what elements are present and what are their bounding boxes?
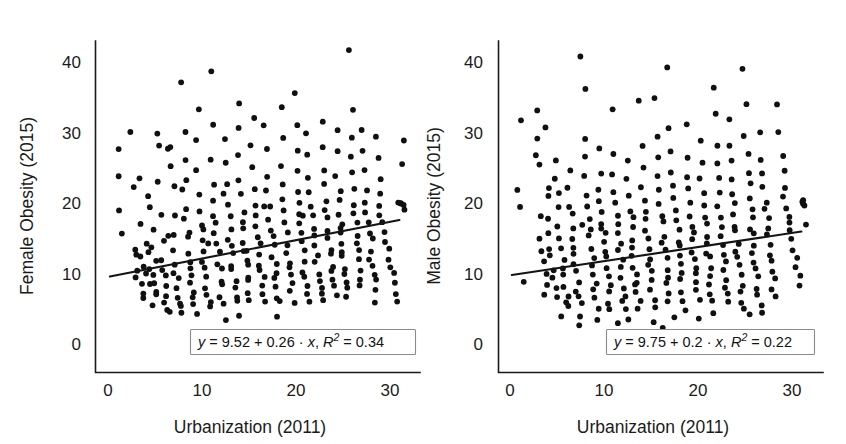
scatter-point	[225, 202, 231, 208]
scatter-point	[757, 129, 763, 135]
scatter-point	[582, 136, 588, 142]
scatter-point	[265, 217, 271, 223]
scatter-point	[727, 143, 733, 149]
scatter-point	[138, 221, 144, 227]
scatter-point	[242, 210, 248, 216]
scatter-point	[140, 295, 146, 301]
scatter-point	[698, 138, 704, 144]
scatter-point	[351, 186, 357, 192]
scatter-point	[594, 281, 600, 287]
scatter-point	[153, 291, 159, 297]
scatter-point	[788, 236, 794, 242]
scatter-point	[537, 162, 543, 168]
scatter-point	[190, 294, 196, 300]
scatter-point	[328, 268, 334, 274]
scatter-point	[545, 216, 551, 222]
scatter-point	[606, 273, 612, 279]
scatter-point	[762, 206, 768, 212]
scatter-point	[274, 261, 280, 267]
scatter-point	[304, 152, 310, 158]
scatter-point	[364, 187, 370, 193]
scatter-point	[296, 220, 302, 226]
scatter-point	[331, 283, 337, 289]
scatter-point	[196, 106, 202, 112]
scatter-point	[321, 167, 327, 173]
scatter-point	[704, 234, 710, 240]
scatter-point	[261, 204, 267, 210]
scatter-point	[153, 258, 159, 264]
scatter-point	[794, 255, 800, 261]
scatter-point	[248, 142, 254, 148]
figure-background	[0, 0, 846, 444]
obesity-urbanization-figure: 010203040 0102030 Female Obesity (2015) …	[0, 0, 846, 444]
scatter-point	[245, 262, 251, 268]
scatter-point	[541, 292, 547, 298]
scatter-point	[606, 306, 612, 312]
scatter-point	[401, 138, 407, 144]
scatter-point	[598, 226, 604, 232]
scatter-point	[179, 187, 185, 193]
scatter-point	[693, 279, 699, 285]
scatter-point	[221, 301, 227, 307]
scatter-point	[191, 290, 197, 296]
scatter-point	[304, 291, 310, 297]
scatter-point	[267, 204, 273, 210]
scatter-point	[225, 237, 231, 243]
scatter-point	[786, 214, 792, 220]
scatter-point	[170, 247, 176, 253]
scatter-point	[651, 319, 657, 325]
scatter-point	[348, 154, 354, 160]
eq-comma-male: ,	[723, 334, 731, 350]
scatter-point	[541, 258, 547, 264]
scatter-point	[656, 187, 662, 193]
scatter-point	[373, 287, 379, 293]
scatter-point	[354, 240, 360, 246]
scatter-point	[734, 254, 740, 260]
scatter-point	[210, 213, 216, 219]
scatter-point	[570, 211, 576, 217]
scatter-point	[283, 250, 289, 256]
scatter-point	[330, 277, 336, 283]
scatter-point	[240, 219, 246, 225]
scatter-point	[295, 168, 301, 174]
scatter-point	[683, 307, 689, 313]
scatter-point	[719, 224, 725, 230]
scatter-point	[185, 251, 191, 257]
scatter-point	[292, 90, 298, 96]
scatter-point	[747, 311, 753, 317]
scatter-point	[273, 284, 279, 290]
scatter-point	[249, 164, 255, 170]
scatter-point	[213, 241, 219, 247]
scatter-point	[320, 119, 326, 125]
scatter-point	[758, 157, 764, 163]
scatter-point	[573, 268, 579, 274]
scatter-point	[336, 212, 342, 218]
scatter-point	[321, 181, 327, 187]
scatter-point	[604, 265, 610, 271]
scatter-point	[567, 168, 573, 174]
y-tick-label: 30	[464, 124, 483, 143]
scatter-point	[236, 313, 242, 319]
scatter-point	[797, 283, 803, 289]
scatter-point	[271, 275, 277, 281]
scatter-point	[514, 187, 520, 193]
scatter-point	[732, 227, 738, 233]
scatter-point	[300, 213, 306, 219]
scatter-point	[320, 144, 326, 150]
scatter-point	[730, 212, 736, 218]
scatter-point	[349, 135, 355, 141]
scatter-point	[558, 314, 564, 320]
scatter-point	[641, 165, 647, 171]
scatter-point	[556, 236, 562, 242]
scatter-point	[570, 245, 576, 251]
scatter-point	[751, 260, 757, 266]
scatter-point	[718, 233, 724, 239]
scatter-point	[663, 280, 669, 286]
scatter-point	[368, 249, 374, 255]
scatter-point	[163, 273, 169, 279]
scatter-point	[315, 253, 321, 259]
scatter-point	[264, 174, 270, 180]
scatter-point	[311, 226, 317, 232]
scatter-point	[305, 283, 311, 289]
scatter-point	[268, 228, 274, 234]
